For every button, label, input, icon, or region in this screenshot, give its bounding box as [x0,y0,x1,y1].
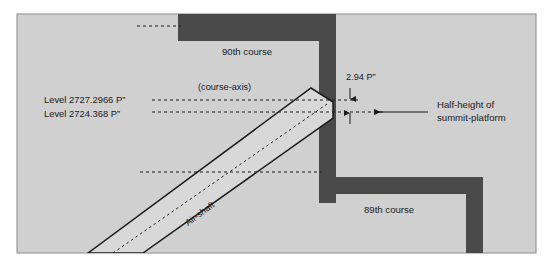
diagram-root: 90th course 89th course (course-axis) Le… [0,0,551,270]
label-course-axis: (course-axis) [198,82,251,92]
label-dimension-294: 2.94 P” [346,72,376,82]
label-callout-line2: summit-platform [437,112,506,123]
label-level-lower: Level 2724.368 P” [44,108,120,119]
label-90th-course: 90th course [222,46,272,57]
label-89th-course: 89th course [364,204,414,215]
section-diagram: 90th course 89th course (course-axis) Le… [0,0,551,270]
label-callout-line1: Half-height of [437,99,494,110]
label-level-upper: Level 2727.2966 P” [44,94,125,105]
